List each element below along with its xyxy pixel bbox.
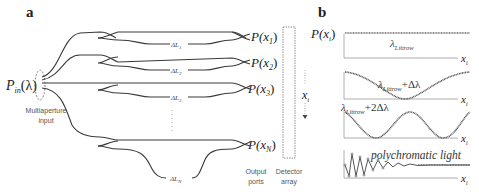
delay-label-n: ΔLN: [169, 175, 182, 184]
output-label-n: P(xN): [247, 137, 276, 154]
detector-array: [283, 27, 295, 158]
plot-1-xlabel: xi: [460, 52, 468, 66]
mzi-3-upper-arm: [42, 83, 250, 89]
plot-3-xlabel: xi: [460, 132, 468, 146]
waveguide-network: [42, 32, 250, 178]
figure-canvas: a Pin(λ) Multiaperture input ΔL1 ΔL2: [0, 0, 479, 192]
delay-label-3: ΔL3: [170, 94, 182, 103]
plot-polychromatic: polychromatic light xi: [344, 149, 470, 186]
output-label-3: P(x3): [247, 81, 274, 98]
mzi-3-lower-arm: [98, 90, 170, 97]
multiaperture-caption: Multiaperture: [26, 107, 67, 115]
delay-label-1: ΔL1: [170, 41, 182, 50]
mzi-2-upper-arm: [80, 55, 250, 64]
plot-2-xlabel: xi: [460, 93, 468, 107]
output-label-2: P(x2): [250, 55, 277, 72]
panel-b-ylabel: P(xi): [310, 26, 335, 43]
delay-label-2: ΔL2: [170, 67, 182, 76]
mzi-2-lower-arm: [98, 57, 170, 70]
plot-4-caption: polychromatic light: [370, 149, 462, 162]
cosine-curve-2: [345, 112, 470, 138]
mzi-1-upper-arm: [98, 32, 246, 38]
plot-1-label: λLittrow: [389, 37, 414, 51]
input-power-label: Pin(λ): [5, 78, 37, 95]
plot-littrow-plus-2dlambda: λLittrow+2Δλ xi: [340, 101, 470, 146]
panel-a-label: a: [26, 4, 34, 20]
detector-caption: Detector: [276, 168, 303, 175]
xi-arrow-head-icon: [303, 115, 308, 119]
output-label-1: P(x1): [250, 29, 277, 46]
plot-littrow: λLittrow xi: [344, 33, 470, 66]
detector-caption-2: array: [281, 178, 297, 186]
input-caption: input: [38, 117, 53, 125]
plot-3-label: λLittrow+2Δλ: [340, 101, 389, 115]
output-ports-caption: Output: [245, 168, 266, 176]
mzi-1-lower-arm: [98, 38, 170, 44]
plot-littrow-plus-dlambda: λLittrow+Δλ xi: [344, 72, 470, 107]
panel-b-label: b: [318, 4, 326, 20]
output-ports-caption-2: ports: [248, 178, 264, 186]
mzi-n-lower-arm: [98, 146, 166, 178]
plot-4-xlabel: xi: [460, 172, 468, 186]
xi-axis-label: xi: [301, 88, 309, 104]
plot-2-label: λLittrow+Δλ: [377, 78, 421, 92]
